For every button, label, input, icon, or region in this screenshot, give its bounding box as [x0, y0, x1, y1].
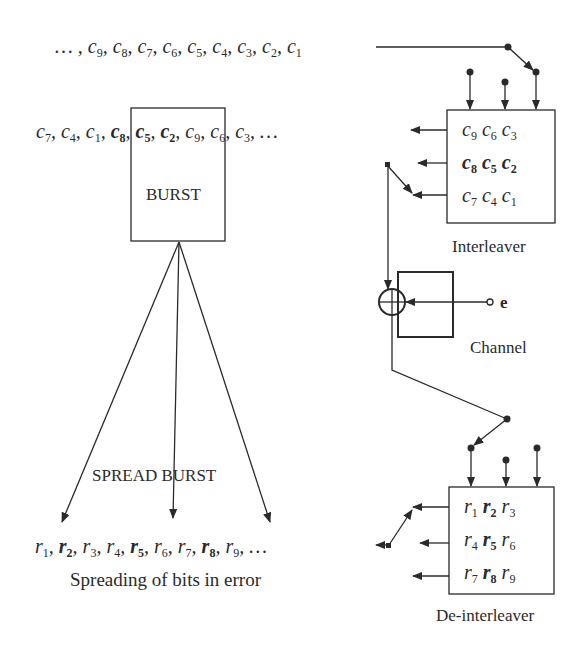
matrix-cell: c9 — [462, 119, 477, 139]
matrix-cell: r8 — [483, 562, 497, 582]
matrix-cell: c5 — [482, 152, 497, 172]
interleaved-sequence: c7, c4, c1, c8, c5, c2, c9, c6, c3, … — [36, 121, 278, 141]
input-codeword-sequence: … , c9, c8, c7, c6, c5, c4, c3, c2, c1 — [55, 36, 302, 56]
symbol: r9 — [225, 535, 239, 557]
matrix-cell: r4 — [464, 529, 478, 549]
interleaver-label: Interleaver — [452, 238, 526, 255]
symbol: r5 — [130, 535, 144, 557]
symbol: r7 — [178, 535, 192, 557]
matrix-cell: r9 — [502, 562, 516, 582]
matrix-row: r4r5r6 — [464, 529, 520, 549]
matrix-cell: r6 — [502, 529, 516, 549]
error-input-label: e — [500, 294, 508, 311]
symbol: c8 — [111, 120, 126, 142]
symbol: r4 — [106, 535, 120, 557]
received-sequence: r1, r2, r3, r4, r5, r6, r7, r8, r9, … — [35, 536, 267, 556]
symbol: c2 — [262, 35, 277, 57]
matrix-cell: r2 — [483, 496, 497, 516]
symbol: c9 — [185, 120, 200, 142]
matrix-cell: c1 — [502, 185, 517, 205]
symbol: r8 — [202, 535, 216, 557]
symbol: r1 — [35, 535, 49, 557]
symbol: c7 — [36, 120, 51, 142]
matrix-cell: c7 — [462, 185, 477, 205]
matrix-cell: c6 — [482, 119, 497, 139]
matrix-cell: c4 — [482, 185, 497, 205]
symbol: c3 — [237, 35, 252, 57]
symbol: c4 — [61, 120, 76, 142]
matrix-cell: r3 — [502, 496, 516, 516]
matrix-row: c7c4c1 — [462, 185, 522, 205]
matrix-row: c8c5c2 — [462, 152, 522, 172]
matrix-cell: c2 — [502, 152, 517, 172]
matrix-row: r7r8r9 — [464, 562, 520, 582]
matrix-cell: r5 — [483, 529, 497, 549]
matrix-cell: c3 — [502, 119, 517, 139]
caption: Spreading of bits in error — [70, 570, 261, 589]
symbol: c1 — [86, 120, 101, 142]
symbol: c2 — [160, 120, 175, 142]
symbol: c9 — [88, 35, 103, 57]
burst-label: BURST — [146, 186, 201, 203]
symbol: c5 — [187, 35, 202, 57]
matrix-cell: r7 — [464, 562, 478, 582]
symbol: r6 — [154, 535, 168, 557]
symbol: c5 — [136, 120, 151, 142]
symbol: c3 — [235, 120, 250, 142]
matrix-cell: r1 — [464, 496, 478, 516]
symbol: r3 — [83, 535, 97, 557]
spread-burst-label: SPREAD BURST — [92, 467, 216, 484]
symbol: c1 — [287, 35, 302, 57]
symbol: r2 — [59, 535, 73, 557]
symbol: c7 — [138, 35, 153, 57]
matrix-row: c9c6c3 — [462, 119, 522, 139]
matrix-cell: c8 — [462, 152, 477, 172]
deinterleaver-matrix: r1r2r3r4r5r6r7r8r9 — [464, 496, 520, 595]
deinterleaver-label: De-interleaver — [436, 607, 534, 624]
matrix-row: r1r2r3 — [464, 496, 520, 516]
symbol: c8 — [113, 35, 128, 57]
interleaver-matrix: c9c6c3c8c5c2c7c4c1 — [462, 119, 522, 218]
symbol: c4 — [212, 35, 227, 57]
symbol: c6 — [162, 35, 177, 57]
channel-label: Channel — [470, 339, 527, 356]
symbol: c6 — [210, 120, 225, 142]
